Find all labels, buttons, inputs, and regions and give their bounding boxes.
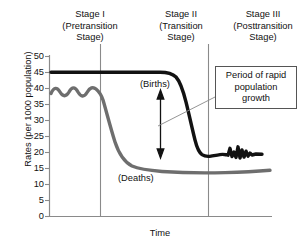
growth-callout-line3: growth <box>226 93 286 104</box>
growth-callout-text: Period of rapid population growth <box>226 70 286 104</box>
demographic-transition-chart: 50 45 40 35 30 25 20 15 10 5 0 Rates (pe… <box>0 0 301 249</box>
growth-callout-box: Period of rapid population growth <box>215 66 297 109</box>
x-axis-title: Time <box>120 228 200 238</box>
y-tick-label-5: 5 <box>22 195 44 205</box>
y-tick-label-0: 0 <box>22 211 44 221</box>
growth-callout-line2: population <box>226 82 286 93</box>
y-axis-title: Rates (per 1000 population) <box>23 29 33 189</box>
chart-plot-area <box>0 0 301 249</box>
deaths-series-label: (Deaths) <box>118 173 154 183</box>
births-series-label: (Births) <box>140 79 170 89</box>
growth-callout-line1: Period of rapid <box>226 70 286 81</box>
y-axis-ticks <box>45 57 50 217</box>
